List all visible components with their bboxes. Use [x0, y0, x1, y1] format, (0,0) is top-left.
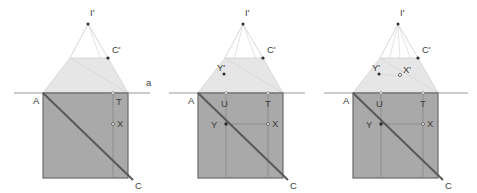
figure-row: I' C' a A T X C I' C' Y' A	[0, 0, 477, 193]
figure-panel-1: I' C' a A T X C	[0, 0, 155, 193]
trapezoid-shape-1	[43, 58, 128, 93]
figure-panel-3: I' C' Y' X' A U T Y X C	[310, 0, 477, 193]
label-Y-2: Y	[211, 119, 218, 130]
point-T-2	[267, 92, 270, 95]
label-C-1: C	[135, 180, 142, 191]
point-T-3	[422, 92, 425, 95]
point-I-prime-1	[87, 23, 90, 26]
point-C-prime-1	[106, 56, 109, 59]
label-I-prime-3: I'	[400, 7, 405, 18]
point-C-prime-3	[416, 56, 419, 59]
label-C-prime-3: C'	[422, 44, 431, 55]
label-Y-3: Y	[366, 119, 373, 130]
label-a-1: a	[146, 77, 152, 88]
label-I-prime-2: I'	[245, 7, 250, 18]
point-Y-3	[379, 122, 382, 125]
point-I-prime-3	[397, 23, 400, 26]
point-I-prime-2	[242, 23, 245, 26]
label-A-3: A	[343, 95, 350, 106]
label-T-2: T	[265, 98, 271, 109]
label-X-2: X	[272, 118, 279, 129]
label-T-1: T	[116, 96, 122, 107]
figure-panel-2: I' C' Y' A U T Y X C	[155, 0, 310, 193]
point-X-1	[112, 123, 115, 126]
label-X-prime-3: X'	[403, 64, 411, 75]
point-C-prime-2	[261, 56, 264, 59]
point-U-2	[225, 92, 228, 95]
label-X-1: X	[117, 118, 124, 129]
point-X-prime-3	[398, 73, 401, 76]
label-U-2: U	[221, 98, 228, 109]
point-Y-2	[224, 122, 227, 125]
label-C-2: C	[290, 180, 297, 191]
label-Y-prime-2: Y'	[217, 62, 225, 73]
label-X-3: X	[427, 118, 434, 129]
point-X-2	[267, 123, 270, 126]
point-U-3	[380, 92, 383, 95]
label-C-prime-2: C'	[267, 44, 276, 55]
label-I-prime-1: I'	[90, 7, 95, 18]
trapezoid-shape-2	[198, 58, 283, 93]
label-C-3: C	[445, 180, 452, 191]
label-A-1: A	[33, 95, 40, 106]
point-T-1	[112, 92, 115, 95]
label-Y-prime-3: Y'	[372, 62, 380, 73]
label-A-2: A	[188, 95, 195, 106]
label-C-prime-1: C'	[112, 44, 121, 55]
label-U-3: U	[376, 98, 383, 109]
label-T-3: T	[420, 98, 426, 109]
point-X-3	[422, 123, 425, 126]
